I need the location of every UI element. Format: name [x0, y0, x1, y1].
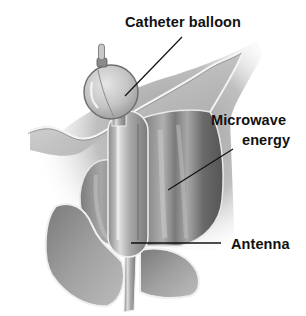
illustration: Catheter balloon Microwave energy Antenn… — [0, 0, 306, 316]
label-microwave-energy-line2: energy — [242, 132, 290, 149]
catheter-balloon — [84, 65, 138, 119]
antenna — [108, 111, 148, 257]
catheter-tip — [97, 44, 107, 67]
label-antenna: Antenna — [231, 236, 290, 253]
urethra-catheter-shaft — [124, 255, 136, 312]
anatomy-drawing — [0, 0, 306, 316]
label-catheter-balloon: Catheter balloon — [125, 14, 241, 31]
label-microwave-energy-line1: Microwave — [211, 112, 286, 129]
lower-right-tissue — [140, 249, 199, 299]
prostate-right-lobe — [143, 110, 223, 246]
